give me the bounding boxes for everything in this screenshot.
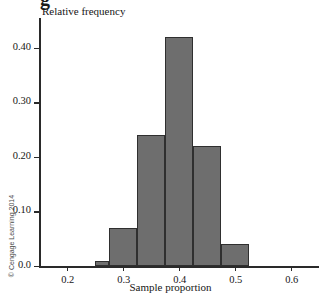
y-tick: 0.30 [34,102,39,103]
x-tick: 0.4 [179,266,180,271]
y-tick-label: 0.40 [13,41,31,53]
x-tick: 0.6 [291,266,292,271]
x-axis-title-text: Sample proportion [129,281,211,294]
x-tick: 0.2 [67,266,68,271]
y-tick: 0.0 [34,266,39,267]
x-tick: 0.5 [235,266,236,271]
histogram-figure: g Relative frequency 0.00.100.200.300.40… [0,0,319,298]
histogram-bar [221,244,249,266]
y-axis-line [39,18,41,267]
y-tick: 0.40 [34,48,39,49]
y-tick-label: 0.20 [13,150,31,162]
copyright-notice: © Cengage Learning 2014 [8,188,16,284]
histogram-bar [109,228,137,266]
histogram-bar [165,37,193,266]
y-tick: 0.20 [34,157,39,158]
y-axis-title: Relative frequency [42,5,125,18]
histogram-bar [193,146,221,266]
y-tick-label: 0.30 [13,95,31,107]
y-tick-label: 0.0 [18,259,31,271]
x-axis-title: Sample proportion [0,281,319,294]
x-tick: 0.3 [123,266,124,271]
histogram-bar [137,135,165,266]
histogram-bar [95,261,109,266]
y-tick: 0.10 [34,211,39,212]
plot-area: 0.00.100.200.300.40 0.20.30.40.50.6 [39,18,319,266]
